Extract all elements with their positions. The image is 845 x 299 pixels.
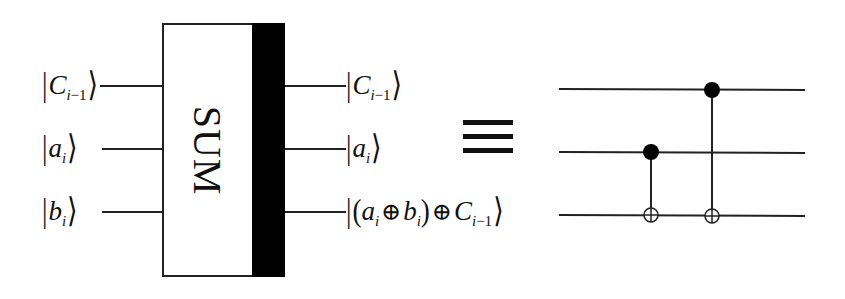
circuit-wire-3 bbox=[559, 215, 805, 216]
circuit-wire-1 bbox=[559, 89, 805, 90]
cnot-2-target-xor-icon bbox=[705, 209, 719, 223]
cnot-circuit bbox=[0, 0, 845, 299]
circuit-wire-2 bbox=[559, 152, 805, 153]
cnot-1-target-xor-icon bbox=[644, 208, 658, 222]
cnot-1-control-dot bbox=[643, 144, 659, 160]
cnot-2-control-dot bbox=[704, 82, 720, 98]
